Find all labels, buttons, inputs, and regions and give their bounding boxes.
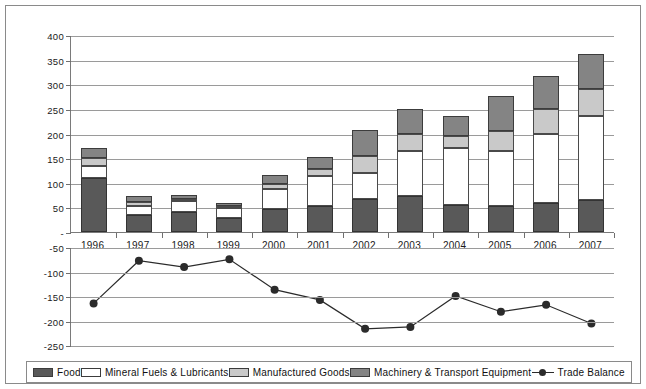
bar-segment-manufactured[interactable] bbox=[262, 184, 288, 189]
bar-segment-machinery[interactable] bbox=[81, 148, 107, 158]
trade-balance-point-1999[interactable] bbox=[225, 255, 233, 263]
lower-y-tick-label: -250 bbox=[44, 341, 64, 352]
upper-y-tick-label: 200 bbox=[47, 129, 64, 140]
bar-segment-mineral[interactable] bbox=[488, 151, 514, 207]
legend-mineral-swatch-icon bbox=[81, 368, 101, 377]
bar-stack[interactable] bbox=[443, 116, 469, 232]
bar-segment-machinery[interactable] bbox=[171, 195, 197, 199]
x-tick-mark bbox=[614, 233, 615, 238]
bar-segment-manufactured[interactable] bbox=[216, 206, 242, 208]
bar-segment-manufactured[interactable] bbox=[533, 109, 559, 134]
upper-y-tick-label: 400 bbox=[47, 31, 64, 42]
bar-segment-food[interactable] bbox=[262, 209, 288, 232]
trade-balance-point-2006[interactable] bbox=[542, 301, 550, 309]
bar-stack[interactable] bbox=[488, 96, 514, 232]
bar-segment-manufactured[interactable] bbox=[397, 134, 423, 151]
upper-y-tick-mark bbox=[66, 36, 71, 37]
upper-y-tick-mark bbox=[66, 85, 71, 86]
chart-page: -50100150200250300350400 199619971998199… bbox=[0, 0, 646, 389]
legend-machinery-swatch-icon bbox=[350, 368, 370, 377]
bar-segment-food[interactable] bbox=[307, 206, 333, 232]
trade-balance-point-2003[interactable] bbox=[406, 323, 414, 331]
bar-segment-mineral[interactable] bbox=[443, 148, 469, 205]
upper-y-tick-label: 100 bbox=[47, 178, 64, 189]
bar-stack[interactable] bbox=[171, 195, 197, 232]
lower-gridline bbox=[71, 273, 614, 274]
bar-stack[interactable] bbox=[352, 130, 378, 232]
bar-segment-food[interactable] bbox=[397, 196, 423, 232]
bar-segment-machinery[interactable] bbox=[126, 196, 152, 202]
bar-stack[interactable] bbox=[81, 148, 107, 232]
bar-stack[interactable] bbox=[307, 157, 333, 232]
bar-segment-food[interactable] bbox=[488, 206, 514, 232]
legend-line-marker-icon bbox=[532, 368, 554, 377]
bar-segment-manufactured[interactable] bbox=[488, 131, 514, 151]
bar-segment-manufactured[interactable] bbox=[81, 158, 107, 166]
bar-segment-manufactured[interactable] bbox=[171, 199, 197, 201]
bar-segment-food[interactable] bbox=[81, 178, 107, 232]
bar-stack[interactable] bbox=[216, 203, 242, 232]
bar-stack[interactable] bbox=[533, 76, 559, 232]
bar-segment-mineral[interactable] bbox=[171, 201, 197, 212]
bar-segment-machinery[interactable] bbox=[578, 54, 604, 89]
bar-segment-food[interactable] bbox=[578, 200, 604, 232]
trade-balance-point-1998[interactable] bbox=[180, 263, 188, 271]
bar-segment-machinery[interactable] bbox=[533, 76, 559, 109]
upper-y-tick-mark bbox=[66, 61, 71, 62]
bar-segment-mineral[interactable] bbox=[262, 189, 288, 209]
bar-segment-manufactured[interactable] bbox=[578, 89, 604, 116]
legend-item-line-marker[interactable]: Trade Balance bbox=[532, 367, 625, 378]
upper-y-tick-mark bbox=[66, 184, 71, 185]
bar-segment-machinery[interactable] bbox=[397, 109, 423, 134]
bar-stack[interactable] bbox=[578, 54, 604, 232]
bar-stack[interactable] bbox=[126, 196, 152, 232]
bar-segment-food[interactable] bbox=[443, 205, 469, 232]
upper-y-tick-label: 350 bbox=[47, 55, 64, 66]
bar-segment-manufactured[interactable] bbox=[443, 136, 469, 148]
bar-segment-mineral[interactable] bbox=[397, 151, 423, 196]
trade-balance-point-2002[interactable] bbox=[361, 325, 369, 333]
legend-item-mineral-swatch[interactable]: Mineral Fuels & Lubricants bbox=[81, 367, 229, 378]
bar-segment-mineral[interactable] bbox=[81, 166, 107, 178]
legend-label: Machinery & Transport Equipment bbox=[374, 367, 531, 378]
bar-segment-manufactured[interactable] bbox=[352, 156, 378, 173]
trade-balance-point-2000[interactable] bbox=[271, 286, 279, 294]
bar-segment-machinery[interactable] bbox=[262, 175, 288, 183]
bar-segment-machinery[interactable] bbox=[352, 130, 378, 156]
x-tick-mark bbox=[297, 233, 298, 238]
bar-segment-mineral[interactable] bbox=[126, 206, 152, 215]
stacked-bar-panel: -50100150200250300350400 199619971998199… bbox=[24, 30, 624, 238]
bar-segment-machinery[interactable] bbox=[443, 116, 469, 136]
x-tick-mark bbox=[569, 233, 570, 238]
bar-segment-mineral[interactable] bbox=[578, 116, 604, 200]
lower-y-tick-mark bbox=[66, 346, 71, 347]
bar-stack[interactable] bbox=[397, 109, 423, 232]
bar-segment-manufactured[interactable] bbox=[126, 202, 152, 206]
bar-segment-machinery[interactable] bbox=[307, 157, 333, 169]
lower-gridline bbox=[71, 248, 614, 249]
bar-segment-manufactured[interactable] bbox=[307, 169, 333, 176]
bar-stack[interactable] bbox=[262, 175, 288, 232]
legend-item-food-swatch[interactable]: Food bbox=[33, 367, 81, 378]
bar-segment-food[interactable] bbox=[352, 199, 378, 232]
lower-y-tick-mark bbox=[66, 322, 71, 323]
bar-segment-mineral[interactable] bbox=[352, 173, 378, 199]
bar-segment-food[interactable] bbox=[126, 215, 152, 232]
trade-balance-point-2005[interactable] bbox=[497, 308, 505, 316]
bar-segment-machinery[interactable] bbox=[488, 96, 514, 131]
bar-segment-food[interactable] bbox=[533, 203, 559, 232]
trade-balance-point-2004[interactable] bbox=[452, 292, 460, 300]
upper-y-tick-mark bbox=[66, 208, 71, 209]
legend-item-machinery-swatch[interactable]: Machinery & Transport Equipment bbox=[350, 367, 531, 378]
bar-segment-machinery[interactable] bbox=[216, 203, 242, 205]
trade-balance-point-1996[interactable] bbox=[90, 299, 98, 307]
bar-segment-food[interactable] bbox=[216, 218, 242, 232]
bar-segment-mineral[interactable] bbox=[533, 134, 559, 204]
upper-y-tick-mark bbox=[66, 159, 71, 160]
legend-item-manufactured-swatch[interactable]: Manufactured Goods bbox=[229, 367, 350, 378]
bar-segment-food[interactable] bbox=[171, 212, 197, 232]
trade-balance-point-1997[interactable] bbox=[135, 257, 143, 265]
bar-segment-mineral[interactable] bbox=[216, 208, 242, 218]
bar-segment-mineral[interactable] bbox=[307, 176, 333, 206]
lower-y-tick-label: -150 bbox=[44, 292, 64, 303]
